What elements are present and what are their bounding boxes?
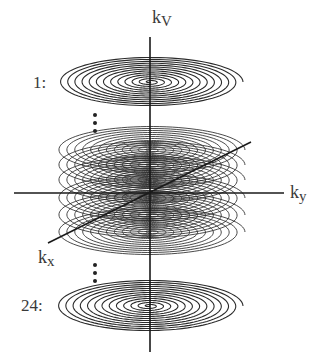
kv-axis-label: kV	[152, 8, 172, 26]
kx-label-sub: x	[47, 253, 55, 269]
diagram-canvas	[0, 0, 325, 363]
kx-axis-label: kx	[38, 248, 55, 266]
ky-label-sub: y	[299, 188, 307, 204]
ellipsis-dot	[93, 113, 97, 117]
spiral-slice-24	[59, 281, 243, 331]
kv-label-sub: V	[161, 13, 172, 29]
ky-label-base: k	[290, 182, 299, 202]
ellipsis-dot	[93, 121, 97, 125]
ellipsis-dots-lower	[93, 263, 99, 287]
ellipsis-dot	[93, 279, 97, 283]
ellipsis-dot	[93, 129, 97, 133]
ellipsis-dot	[93, 263, 97, 267]
stack-of-spirals-diagram: kV ky kx 1: 24:	[0, 0, 325, 363]
kv-label-base: k	[152, 7, 161, 27]
slice-label-last: 24:	[21, 297, 43, 314]
ky-axis-label: ky	[290, 183, 307, 201]
ellipsis-dots-upper	[93, 113, 99, 137]
slice-label-first: 1:	[33, 74, 46, 91]
ellipsis-dot	[93, 271, 97, 275]
kx-label-base: k	[38, 247, 47, 267]
spiral-slice-1	[61, 57, 243, 105]
